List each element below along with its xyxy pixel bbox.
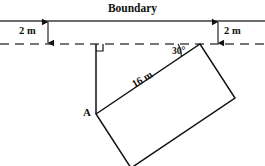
dimension-left-label: 2 m: [19, 26, 36, 37]
dimension-right-label: 2 m: [224, 26, 241, 37]
right-angle-marker-icon: [96, 44, 103, 51]
point-a-label: A: [83, 107, 91, 118]
angle-label: 30°: [172, 47, 185, 57]
rectangle-plot: [96, 44, 235, 166]
boundary-title: Boundary: [0, 3, 265, 15]
geometry-diagram: Boundary 2 m 2 m 30° A 16 m: [0, 0, 265, 166]
